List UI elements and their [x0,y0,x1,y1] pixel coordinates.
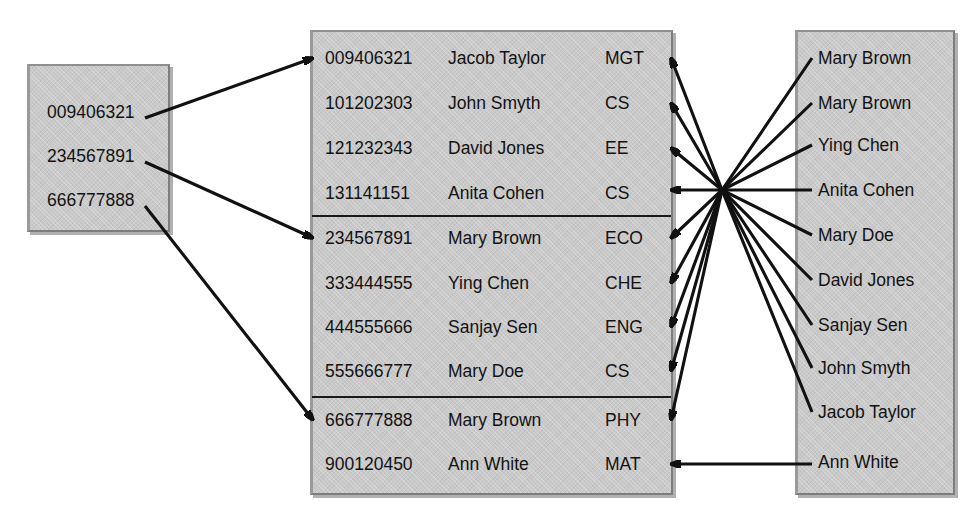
left-id-2: 666777888 [47,192,135,210]
row-8-id: 666777888 [325,412,413,430]
row-4-name: Mary Brown [448,230,541,248]
right-name-0: Mary Brown [818,50,911,68]
row-9-name: Ann White [448,456,529,474]
row-3-name: Anita Cohen [448,185,544,203]
row-1-name: John Smyth [448,95,540,113]
arrow-right-1 [671,103,812,420]
row-2-name: David Jones [448,140,544,158]
row-6-dept: ENG [605,319,643,337]
diagram-canvas: 009406321 234567891 666777888 009406321 … [0,0,968,516]
row-8-dept: PHY [605,412,641,430]
left-id-0: 009406321 [47,104,135,122]
row-4-id: 234567891 [325,230,413,248]
row-9-dept: MAT [605,456,641,474]
arrow-right-0 [671,58,812,238]
right-name-5: David Jones [818,272,914,290]
row-0-id: 009406321 [325,50,413,68]
row-8-name: Mary Brown [448,412,541,430]
row-1-dept: CS [605,95,629,113]
row-3-dept: CS [605,185,629,203]
row-0-dept: MGT [605,50,644,68]
row-2-id: 121232343 [325,140,413,158]
row-5-dept: CHE [605,275,642,293]
row-6-name: Sanjay Sen [448,319,538,337]
group-separator-2 [312,396,671,398]
arrow-left-2 [145,206,313,420]
row-7-name: Mary Doe [448,363,524,381]
arrow-right-5 [671,148,812,280]
row-0-name: Jacob Taylor [448,50,546,68]
group-separator-1 [312,215,671,217]
right-name-4: Mary Doe [818,227,894,245]
left-id-1: 234567891 [47,148,135,166]
arrow-right-8 [671,58,812,412]
row-9-id: 900120450 [325,456,413,474]
right-name-3: Anita Cohen [818,182,914,200]
arrow-right-6 [671,190,812,327]
row-2-dept: EE [605,140,628,158]
right-name-6: Sanjay Sen [818,317,908,335]
row-6-id: 444555666 [325,319,413,337]
row-1-id: 101202303 [325,95,413,113]
row-5-id: 333444555 [325,275,413,293]
right-name-2: Ying Chen [818,137,899,155]
right-name-8: Jacob Taylor [818,404,916,422]
right-name-1: Mary Brown [818,95,911,113]
arrow-left-1 [145,162,313,238]
row-3-id: 131141151 [325,185,410,203]
left-arrows [145,58,313,420]
arrow-right-2 [671,145,812,283]
row-7-id: 555666777 [325,363,413,381]
right-name-9: Ann White [818,454,899,472]
row-4-dept: ECO [605,230,643,248]
arrow-left-0 [145,58,313,118]
arrow-right-7 [671,103,812,368]
arrow-right-4 [671,190,812,371]
row-7-dept: CS [605,363,629,381]
right-arrows [671,58,812,464]
row-5-name: Ying Chen [448,275,529,293]
right-name-7: John Smyth [818,360,910,378]
